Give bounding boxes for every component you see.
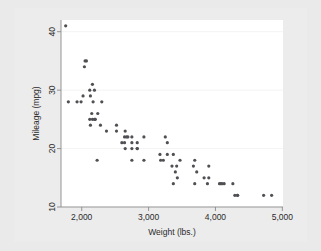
data-point bbox=[124, 147, 127, 150]
data-point bbox=[207, 176, 210, 179]
scatter-plot: 2,0003,0004,0005,000 10203040 Weight (lb… bbox=[14, 8, 307, 242]
data-point bbox=[142, 159, 145, 162]
data-point bbox=[130, 141, 133, 144]
data-point bbox=[89, 94, 92, 97]
x-tick-label: 5,000 bbox=[272, 212, 294, 222]
x-axis-tickmarks bbox=[82, 207, 283, 211]
y-axis-tick-labels: 10203040 bbox=[47, 27, 57, 212]
data-point bbox=[158, 153, 161, 156]
data-point bbox=[195, 170, 198, 173]
data-point bbox=[130, 159, 133, 162]
data-point bbox=[193, 182, 196, 185]
data-point bbox=[207, 164, 210, 167]
data-point bbox=[136, 147, 139, 150]
data-point bbox=[136, 141, 139, 144]
data-point bbox=[170, 164, 173, 167]
data-point bbox=[206, 182, 209, 185]
y-tick-label: 30 bbox=[47, 85, 57, 95]
y-tick-label: 40 bbox=[47, 27, 57, 37]
data-point bbox=[90, 112, 93, 115]
data-point bbox=[96, 112, 99, 115]
data-point bbox=[124, 129, 127, 132]
data-point bbox=[91, 83, 94, 86]
data-point bbox=[130, 135, 133, 138]
x-axis-title: Weight (lbs.) bbox=[148, 227, 196, 237]
data-point bbox=[166, 141, 169, 144]
data-point bbox=[270, 194, 273, 197]
data-point bbox=[96, 159, 99, 162]
y-tick-label: 10 bbox=[47, 202, 57, 212]
data-point bbox=[221, 182, 224, 185]
x-axis-tick-labels: 2,0003,0004,0005,000 bbox=[71, 212, 293, 222]
data-point bbox=[93, 89, 96, 92]
data-point bbox=[176, 176, 179, 179]
data-point bbox=[142, 135, 145, 138]
data-point bbox=[236, 194, 239, 197]
data-point bbox=[105, 129, 108, 132]
data-point bbox=[174, 170, 177, 173]
y-axis-title: Mileage (mpg) bbox=[31, 86, 41, 140]
data-point bbox=[130, 147, 133, 150]
data-point bbox=[164, 135, 167, 138]
plot-area-background bbox=[61, 20, 283, 207]
chart-figure: 2,0003,0004,0005,000 10203040 Weight (lb… bbox=[0, 0, 321, 251]
x-tick-label: 2,000 bbox=[71, 212, 93, 222]
data-point bbox=[64, 24, 67, 27]
data-point bbox=[192, 164, 195, 167]
data-point bbox=[75, 100, 78, 103]
data-point bbox=[202, 176, 205, 179]
y-axis-tickmarks bbox=[57, 32, 61, 207]
data-point bbox=[162, 159, 165, 162]
data-point bbox=[83, 59, 86, 62]
data-point bbox=[100, 100, 103, 103]
data-point bbox=[91, 100, 94, 103]
y-tick-label: 20 bbox=[47, 144, 57, 154]
data-point bbox=[115, 124, 118, 127]
data-point bbox=[83, 65, 86, 68]
x-tick-label: 3,000 bbox=[138, 212, 160, 222]
data-point bbox=[172, 182, 175, 185]
data-point bbox=[175, 164, 178, 167]
data-point bbox=[115, 129, 118, 132]
data-point bbox=[88, 89, 91, 92]
data-point bbox=[81, 94, 84, 97]
data-point bbox=[166, 153, 169, 156]
data-point bbox=[231, 182, 234, 185]
data-point bbox=[125, 135, 128, 138]
data-point bbox=[89, 124, 92, 127]
data-point bbox=[79, 100, 82, 103]
data-point bbox=[123, 141, 126, 144]
data-point bbox=[262, 194, 265, 197]
data-point bbox=[178, 159, 181, 162]
chart-canvas: 2,0003,0004,0005,000 10203040 Weight (lb… bbox=[14, 8, 307, 242]
x-tick-label: 4,000 bbox=[205, 212, 227, 222]
data-point bbox=[88, 118, 91, 121]
data-point bbox=[193, 159, 196, 162]
data-point bbox=[172, 153, 175, 156]
data-point bbox=[67, 100, 70, 103]
data-point bbox=[99, 124, 102, 127]
